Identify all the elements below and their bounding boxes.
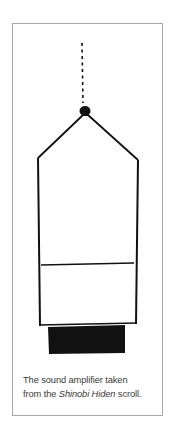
black-base (48, 325, 125, 354)
left-side (38, 158, 40, 326)
roof-outline (38, 115, 138, 160)
caption-line-1: The sound amplifier taken (23, 373, 163, 387)
dashed-string (82, 43, 83, 103)
figure-caption: The sound amplifier taken from the Shino… (23, 373, 163, 401)
caption-scroll-title: Shinobi Hiden (59, 389, 116, 399)
band-line (41, 263, 134, 265)
caption-suffix: scroll. (115, 389, 141, 399)
caption-line-2: from the Shinobi Hiden scroll. (23, 387, 163, 401)
right-side (136, 160, 138, 324)
bottom-edge (39, 323, 137, 325)
caption-prefix: from the (23, 389, 59, 399)
